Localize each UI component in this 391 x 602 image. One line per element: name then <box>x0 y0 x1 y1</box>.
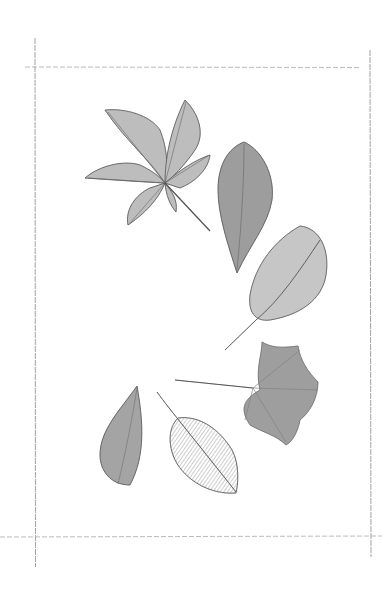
small-pointed-leaf <box>100 386 142 485</box>
leaf-illustration <box>0 0 391 602</box>
horse-chestnut-leaf <box>85 100 210 231</box>
ovate-dark-leaf <box>218 142 272 273</box>
skeleton-leaf <box>157 392 238 493</box>
